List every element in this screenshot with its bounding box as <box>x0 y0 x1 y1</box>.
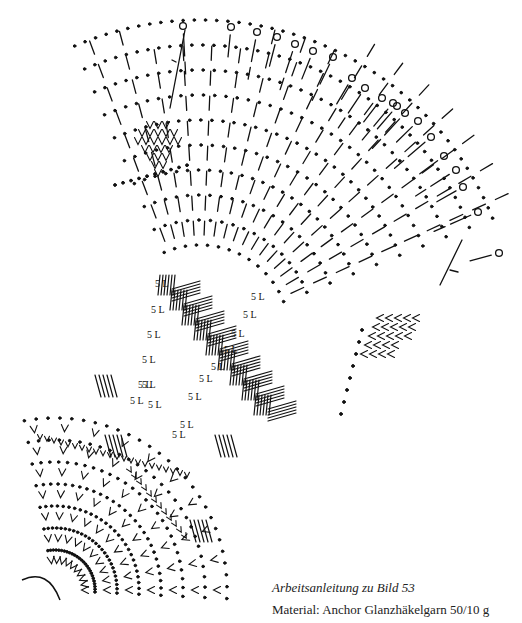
chain-label: 5 L <box>188 391 202 402</box>
chain-label: 5 L <box>151 304 165 315</box>
chain-circle <box>460 184 467 191</box>
crochet-chart-diagram: 5 L5 L5 L5 L5 L5 L5 L5 L5 L5 L5 L5 L5 L5… <box>0 0 522 623</box>
chain-circle <box>180 23 187 30</box>
chain-circle <box>310 48 317 55</box>
chain-label: 5 L <box>148 399 162 410</box>
chain-label: 5 L <box>142 354 156 365</box>
chain-circle <box>475 209 482 216</box>
chain-circle <box>228 24 235 31</box>
chain-label: 5 L <box>243 309 257 320</box>
chart-stitches <box>23 19 508 600</box>
chain-circle <box>292 41 299 48</box>
chain-label: 5 L <box>172 429 186 440</box>
pattern-title: Arbeitsanleitung zu Bild 53 <box>272 580 415 596</box>
chain-label: 5 L <box>211 361 225 372</box>
chain-circle <box>254 29 261 36</box>
chain-label: 5 L <box>138 379 152 390</box>
chain-label: 5 L <box>231 328 245 339</box>
chain-circle <box>415 118 422 125</box>
chain-label: 5 L <box>251 291 265 302</box>
chain-circle <box>428 134 435 141</box>
chain-circle <box>362 85 369 92</box>
chain-label: 5 L <box>130 395 144 406</box>
material-line: Material: Anchor Glanzhäkelgarn 50/10 g <box>272 602 489 618</box>
chain-circle <box>274 34 281 41</box>
chain-label: 5 L <box>199 373 213 384</box>
chain-circle <box>496 250 503 257</box>
chain-labels: 5 L5 L5 L5 L5 L5 L5 L5 L5 L5 L5 L5 L5 L5… <box>130 278 265 440</box>
chain-circle <box>453 167 460 174</box>
chain-label: 5 L <box>155 278 169 289</box>
chain-label: 5 L <box>224 344 238 355</box>
chain-label: 5 L <box>147 329 161 340</box>
chain-circle <box>379 95 386 102</box>
center-ring-arc <box>22 577 60 600</box>
